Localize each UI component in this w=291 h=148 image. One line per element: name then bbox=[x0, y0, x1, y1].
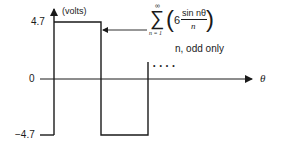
denominator: n bbox=[191, 22, 196, 31]
y-axis-unit: (volts) bbox=[62, 7, 87, 16]
sum-lower-limit: n = 1 bbox=[149, 30, 162, 36]
y-tick-zero: 0 bbox=[29, 74, 35, 84]
x-axis-label: θ bbox=[260, 73, 265, 84]
coefficient: 6 bbox=[174, 15, 180, 26]
continuation-dots: • • • • bbox=[153, 62, 176, 69]
y-tick-high: 4.7 bbox=[31, 17, 45, 27]
sum-symbol: ∑ bbox=[150, 8, 164, 28]
y-tick-low: −4.7 bbox=[15, 130, 35, 140]
numerator: sin nθ bbox=[181, 9, 207, 20]
left-paren: ( bbox=[166, 7, 174, 31]
right-paren: ) bbox=[206, 7, 214, 31]
formula-condition: n, odd only bbox=[175, 44, 224, 54]
